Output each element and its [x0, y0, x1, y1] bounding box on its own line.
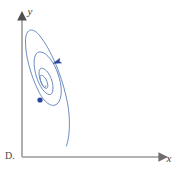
y-axis-label: y — [27, 5, 33, 17]
x-axis-label: x — [166, 152, 172, 164]
spiral-trajectory-curve — [25, 30, 69, 146]
phase-portrait-figure: x y D. — [0, 0, 179, 170]
equilibrium-point-dot — [37, 97, 42, 102]
phase-portrait-canvas: x y D. — [0, 0, 179, 170]
choice-letter-label: D. — [5, 150, 15, 161]
